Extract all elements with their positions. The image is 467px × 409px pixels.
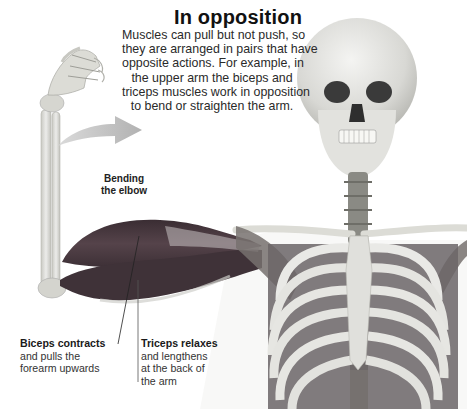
intro-line: Muscles can pull but not push, so <box>122 28 302 42</box>
arrow-label: Bending the elbow <box>96 173 152 197</box>
callout-heading: Biceps contracts <box>20 337 105 350</box>
intro-line: triceps muscles work in opposition <box>122 85 302 99</box>
intro-line: opposite actions. For example, in <box>122 56 302 70</box>
callout-biceps: Biceps contracts and pulls the forearm u… <box>20 337 105 375</box>
intro-line: they are arranged in pairs that have <box>122 42 302 56</box>
page-title: In opposition <box>168 6 308 29</box>
intro-line: to bend or straighten the arm. <box>122 99 302 113</box>
infographic-page: In opposition Muscles can pull but not p… <box>0 0 467 409</box>
callout-triceps: Triceps relaxes and lengthens at the bac… <box>141 337 218 387</box>
intro-paragraph: Muscles can pull but not push, so they a… <box>122 28 302 113</box>
curved-arrow-icon <box>58 116 142 146</box>
intro-line: the upper arm the biceps and <box>122 71 302 85</box>
callout-heading: Triceps relaxes <box>141 337 218 350</box>
